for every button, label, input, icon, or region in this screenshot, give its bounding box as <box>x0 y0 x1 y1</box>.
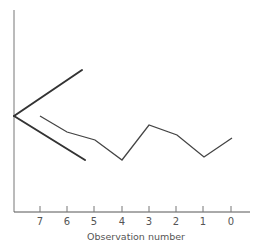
tick-label-6: 6 <box>64 216 70 227</box>
tick-label-0: 0 <box>228 216 234 227</box>
tick-label-4: 4 <box>119 216 125 227</box>
x-ticks <box>40 206 231 212</box>
tick-label-1: 1 <box>200 216 206 227</box>
v-mask <box>14 70 85 160</box>
x-axis-label: Observation number <box>87 231 185 242</box>
x-tick-labels: 7 6 5 4 3 2 1 0 <box>37 216 234 227</box>
chart-canvas: 7 6 5 4 3 2 1 0 Observation number <box>0 0 262 249</box>
tick-label-5: 5 <box>91 216 97 227</box>
v-mask-lower-arm <box>14 116 85 160</box>
v-mask-upper-arm <box>14 70 82 116</box>
tick-label-2: 2 <box>173 216 179 227</box>
tick-label-7: 7 <box>37 216 43 227</box>
tick-label-3: 3 <box>146 216 152 227</box>
observation-series-line <box>40 116 232 160</box>
